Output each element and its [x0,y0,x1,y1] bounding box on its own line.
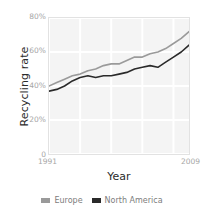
series-lines [49,32,189,92]
plot-svg [49,18,189,154]
legend-label-europe: Europe [54,196,82,205]
chart-legend: Europe North America [0,196,204,205]
y-tick-label-80: 80% [20,13,46,21]
x-axis-tick-labels: 1991 2009 [48,157,190,169]
plot-area [48,17,190,155]
x-tick-label-end: 2009 [181,157,200,166]
y-tick-label-60: 60% [20,47,46,55]
gridlines [49,18,189,154]
legend-item-north-america: North America [92,196,163,205]
y-tick-label-20: 20% [20,116,46,124]
x-tick-label-start: 1991 [38,157,57,166]
x-axis-title: Year [48,170,190,183]
legend-swatch-icon-north-america [92,198,101,203]
recycling-rate-line-chart: Recycling rate 80% 60% 40% 20% 0 1991 20… [0,0,204,215]
series-line-europe [49,32,189,86]
legend-swatch-icon-europe [41,198,50,203]
legend-label-north-america: North America [105,196,163,205]
y-axis-tick-labels: 80% 60% 40% 20% 0 [18,0,46,215]
legend-item-europe: Europe [41,196,82,205]
y-tick-label-40: 40% [20,82,46,90]
